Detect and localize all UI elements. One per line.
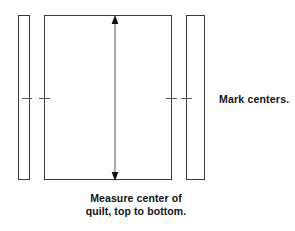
quilt-measurement-diagram: Mark centers. Measure center of quilt, t… <box>0 0 295 231</box>
vertical-measure-arrow <box>108 14 122 182</box>
mark-centers-label: Mark centers. <box>219 93 289 105</box>
tick-left-outer <box>22 98 32 99</box>
caption: Measure center of quilt, top to bottom. <box>44 192 228 218</box>
diagram-page: { "diagram": { "title": "Measure center … <box>0 0 295 231</box>
caption-line-1: Measure center of <box>44 192 228 205</box>
tick-right-inner <box>166 98 177 99</box>
tick-left-inner <box>39 98 50 99</box>
tick-right-outer <box>181 98 192 99</box>
caption-line-2: quilt, top to bottom. <box>44 205 228 218</box>
